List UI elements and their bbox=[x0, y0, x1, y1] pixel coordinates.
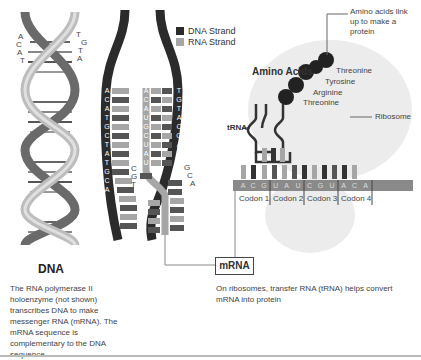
unpaired-right-3: A bbox=[190, 179, 195, 188]
base: C bbox=[142, 131, 150, 140]
base: C bbox=[349, 180, 360, 191]
base: A bbox=[103, 104, 111, 113]
helix-base-left-4: T bbox=[20, 56, 25, 65]
ribosome-label: Ribosome bbox=[375, 112, 411, 121]
base: A bbox=[281, 180, 292, 191]
base: C bbox=[304, 180, 315, 191]
mrna-bases: A C G U A U C G U A C A bbox=[238, 180, 371, 191]
trna-label: tRNA bbox=[227, 123, 247, 132]
bottom-divider bbox=[0, 355, 421, 357]
unpaired-left-3: T bbox=[131, 180, 136, 189]
base: T bbox=[175, 86, 183, 95]
amino-acid-1: Threonine bbox=[336, 66, 372, 75]
base: A bbox=[142, 149, 150, 158]
codon-4: Codon 4 bbox=[341, 194, 371, 203]
base: G bbox=[315, 180, 326, 191]
base: T bbox=[103, 113, 111, 122]
base: U bbox=[142, 140, 150, 149]
base: A bbox=[142, 86, 150, 95]
base: T bbox=[175, 104, 183, 113]
base: A bbox=[360, 180, 371, 191]
base: A bbox=[103, 149, 111, 158]
base: A bbox=[338, 180, 349, 191]
dna-title: DNA bbox=[38, 262, 64, 276]
rna-swatch bbox=[176, 38, 184, 46]
codon-3: Codon 3 bbox=[307, 194, 337, 203]
right-dna-letters: T G T A C G A T A bbox=[175, 86, 183, 167]
helix-base-right-4: A bbox=[77, 54, 82, 63]
legend-label-dna: DNA Strand bbox=[188, 26, 236, 36]
base: C bbox=[248, 180, 258, 191]
base: A bbox=[175, 113, 183, 122]
legend-label-rna: RNA Strand bbox=[188, 37, 236, 47]
base: U bbox=[142, 158, 150, 167]
base: C bbox=[142, 95, 150, 104]
base: U bbox=[326, 180, 338, 191]
base: G bbox=[103, 167, 111, 176]
ribosome-graphic bbox=[233, 14, 413, 253]
base: A bbox=[175, 140, 183, 149]
codon-2: Codon 2 bbox=[273, 194, 303, 203]
amino-acids-title: Amino Acids bbox=[252, 66, 313, 77]
base: T bbox=[175, 149, 183, 158]
amino-acid-2: Tyrosine bbox=[325, 77, 355, 86]
base: A bbox=[175, 158, 183, 167]
base: G bbox=[175, 131, 183, 140]
base: T bbox=[103, 158, 111, 167]
legend-item-rna: RNA Strand bbox=[176, 37, 236, 47]
amino-acid-4: Threonine bbox=[303, 98, 339, 107]
rna-letters: A C A U G C U A U bbox=[142, 86, 150, 167]
dna-double-helix bbox=[25, 12, 75, 245]
base: U bbox=[292, 180, 304, 191]
dna-swatch bbox=[176, 27, 184, 35]
trna-caption: On ribosomes, transfer RNA (tRNA) helps … bbox=[216, 283, 406, 305]
base: C bbox=[103, 176, 111, 185]
dna-caption: The RNA polymerase II holoenzyme (not sh… bbox=[10, 283, 120, 360]
transcription-bubble bbox=[105, 10, 215, 265]
base: C bbox=[103, 95, 111, 104]
legend-item-dna: DNA Strand bbox=[176, 26, 236, 36]
base: C bbox=[103, 131, 111, 140]
mrna-label-box: mRNA bbox=[215, 257, 254, 275]
amino-acid-3: Arginine bbox=[313, 88, 342, 97]
codon-1: Codon 1 bbox=[239, 194, 269, 203]
base: U bbox=[142, 113, 150, 122]
base: G bbox=[142, 122, 150, 131]
base: A bbox=[103, 185, 111, 194]
base: G bbox=[175, 95, 183, 104]
left-dna-letters: A C A T G C T A T G C A bbox=[103, 86, 111, 194]
amino-note: Amino acids link up to make a protein bbox=[350, 7, 410, 37]
base: G bbox=[103, 122, 111, 131]
base: C bbox=[175, 122, 183, 131]
base: A bbox=[238, 180, 248, 191]
base: A bbox=[103, 86, 111, 95]
base: U bbox=[270, 180, 281, 191]
base: A bbox=[142, 104, 150, 113]
base: T bbox=[103, 140, 111, 149]
base: G bbox=[258, 180, 270, 191]
